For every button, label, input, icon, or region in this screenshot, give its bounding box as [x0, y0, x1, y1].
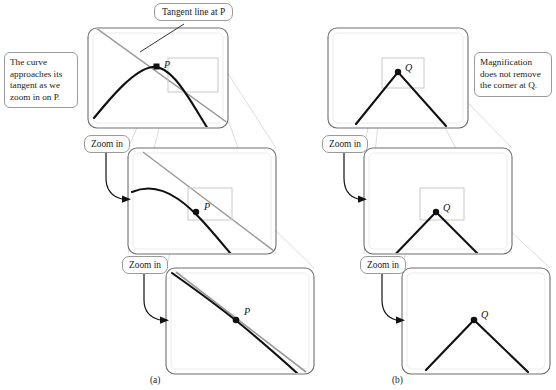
zoom-arrow-a1-head: [122, 196, 131, 203]
zoom-arrow-b1-path: [344, 150, 358, 199]
figure-root: Tangent line at P The curve approaches i…: [0, 0, 556, 390]
curve-a3: [172, 273, 298, 374]
point-label-a1: P: [164, 60, 170, 70]
curve-a1: [94, 67, 213, 137]
frame-b-level-3: [402, 268, 550, 374]
tangent-line-a3: [176, 272, 306, 372]
connector-a2-right: [232, 188, 314, 268]
point-marker-b1: [395, 69, 401, 75]
zoom-arrows-panel-b: [344, 150, 405, 324]
point-marker-a2: [193, 209, 199, 215]
frame-b1-inner-edge: [333, 33, 463, 123]
zoom-in-label-a2: Zoom in: [122, 256, 168, 274]
zoom-arrow-a2-head: [160, 317, 169, 324]
frame-b3-inner-edge: [407, 273, 545, 369]
frame-a-level-1: [88, 28, 232, 137]
frame-b-level-2: [364, 148, 512, 266]
zoom-in-label-a1: Zoom in: [84, 135, 130, 153]
frame-a3-border: [166, 268, 314, 374]
frame-b2-inner-edge: [369, 153, 507, 249]
callout-left: The curve approaches its tangent as we z…: [4, 52, 78, 108]
point-marker-a3: [233, 317, 240, 324]
frame-a2-border: [128, 148, 276, 254]
zoom-in-label-b1: Zoom in: [322, 135, 368, 153]
zoom-arrows-panel-a: [106, 150, 169, 324]
point-label-a3: P: [244, 307, 250, 317]
point-label-b2: Q: [443, 203, 450, 213]
frame-b-level-1: [328, 28, 468, 128]
zoom-window-a1: [168, 58, 218, 92]
point-marker-a1: [154, 64, 160, 70]
point-marker-b2: [433, 209, 439, 215]
point-label-b1: Q: [405, 63, 412, 73]
tangent-line-a1: [96, 28, 232, 126]
corner-graph-b3: [426, 320, 528, 372]
frame-b3-border: [402, 268, 550, 374]
connector-a1-top: [128, 58, 168, 148]
zoom-arrow-a2-path: [144, 272, 160, 320]
connector-b1-bottom: [364, 88, 382, 254]
figure-vector-layer: [0, 0, 556, 390]
tangent-label-leader: [140, 24, 184, 52]
frame-a-level-2: [128, 148, 278, 260]
point-label-a2: P: [204, 202, 210, 212]
frame-a3-inner-edge: [171, 273, 309, 369]
frame-a1-inner-edge: [93, 33, 223, 123]
frame-a2-inner-edge: [133, 153, 271, 249]
point-label-b3: Q: [481, 310, 488, 320]
connector-b2-top: [402, 188, 420, 268]
frame-b2-border: [364, 148, 512, 254]
zoom-arrow-b2-head: [396, 317, 405, 324]
frame-a1-border: [88, 28, 228, 128]
tangent-line-label: Tangent line at P: [154, 3, 233, 21]
zoom-arrow-b2-path: [382, 272, 396, 320]
zoom-arrow-a1-path: [106, 150, 122, 199]
connector-b2-right: [464, 188, 550, 268]
tangent-line-a2: [143, 152, 278, 254]
connectors-panel-a: [128, 58, 314, 268]
frame-a-level-3: [166, 268, 314, 374]
connector-b1-top: [364, 58, 382, 148]
zoom-window-b2: [420, 188, 464, 220]
connector-a1-right: [218, 58, 276, 148]
connector-a2-top: [166, 188, 188, 268]
panel-caption-a: (a): [150, 375, 160, 385]
point-marker-b3: [471, 317, 478, 324]
zoom-in-label-b2: Zoom in: [360, 256, 406, 274]
frame-b1-border: [328, 28, 468, 128]
zoom-window-b1: [382, 58, 424, 88]
zoom-arrow-b1-head: [358, 196, 367, 203]
connector-a1-rightlow: [218, 92, 276, 254]
curve-a2: [132, 189, 236, 260]
panel-caption-b: (b): [392, 375, 403, 385]
connector-b1-rightlow: [424, 88, 512, 254]
connector-a1-bottom: [128, 92, 168, 254]
corner-graph-b1: [356, 72, 446, 126]
callout-right: Magnification does not remove the corner…: [474, 52, 552, 97]
